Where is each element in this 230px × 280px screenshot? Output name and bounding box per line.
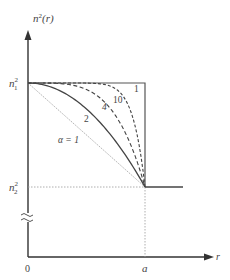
y-axis-label: n2(r) — [33, 12, 54, 25]
y-axis-arrow-icon — [25, 30, 32, 40]
n2-squared-label: n22 — [9, 180, 19, 196]
index-profile-chart: n2(r) n21 n22 0 a r α = 1 2 4 10 1 — [0, 0, 230, 280]
alpha-1-label: α = 1 — [58, 135, 79, 145]
alpha-4-label: 4 — [102, 102, 107, 112]
n1-squared-label: n21 — [9, 76, 19, 92]
a-tick-label: a — [142, 262, 148, 274]
x-axis-label: r — [216, 251, 220, 262]
step-label: 1 — [134, 84, 139, 94]
alpha-10-label: 10 — [113, 95, 123, 105]
alpha-2-label: 2 — [84, 114, 89, 124]
series-alpha-1 — [28, 83, 145, 187]
origin-label: 0 — [25, 263, 30, 274]
axis-break-icon — [21, 213, 34, 222]
x-axis-arrow-icon — [204, 254, 214, 261]
